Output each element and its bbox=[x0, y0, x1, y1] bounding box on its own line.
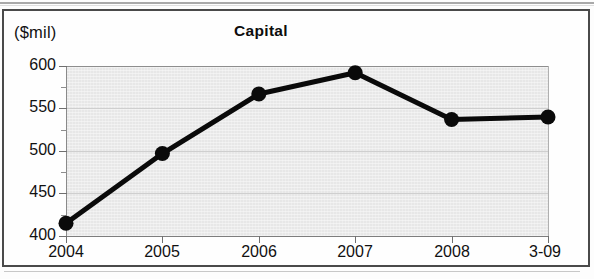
y-tick-500 bbox=[59, 151, 67, 152]
scan-artifact-line-secondary bbox=[0, 5, 594, 6]
y-tick-525 bbox=[61, 130, 67, 131]
x-tick-3-09 bbox=[548, 236, 549, 243]
x-axis-label-2006: 2006 bbox=[219, 243, 299, 261]
gridline-550 bbox=[66, 108, 548, 109]
x-axis-line bbox=[66, 236, 549, 237]
x-axis-label-2005: 2005 bbox=[122, 243, 202, 261]
plot-area bbox=[66, 66, 548, 236]
x-tick-2004 bbox=[66, 236, 67, 243]
y-axis-label-550: 550 bbox=[4, 98, 56, 116]
gridline-450 bbox=[66, 193, 548, 194]
x-tick-2005 bbox=[162, 236, 163, 243]
x-tick-2006 bbox=[259, 236, 260, 243]
x-axis-label-2008: 2008 bbox=[412, 243, 492, 261]
y-tick-600 bbox=[59, 66, 67, 67]
scan-artifact-line bbox=[0, 2, 594, 4]
gridline-500 bbox=[66, 151, 548, 152]
x-tick-2007 bbox=[355, 236, 356, 243]
y-axis-label-500: 500 bbox=[4, 141, 56, 159]
x-axis-label-3-09: 3-09 bbox=[505, 243, 585, 261]
y-axis-labels: 600 550 500 450 400 bbox=[0, 0, 56, 279]
y-tick-425 bbox=[61, 215, 67, 216]
y-axis-label-450: 450 bbox=[4, 183, 56, 201]
plot-right-edge bbox=[548, 66, 549, 237]
y-tick-575 bbox=[61, 87, 67, 88]
y-tick-475 bbox=[61, 172, 67, 173]
y-tick-550 bbox=[59, 108, 67, 109]
y-axis-label-400: 400 bbox=[4, 226, 56, 244]
x-axis-label-2007: 2007 bbox=[315, 243, 395, 261]
y-axis-label-600: 600 bbox=[4, 56, 56, 74]
x-tick-2008 bbox=[452, 236, 453, 243]
chart-page: ($mil) Capital 600 550 500 450 400 2004 … bbox=[0, 0, 594, 279]
page-bottom-rule bbox=[4, 271, 580, 272]
y-tick-450 bbox=[59, 193, 67, 194]
x-axis-label-2004: 2004 bbox=[26, 243, 106, 261]
chart-title: Capital bbox=[0, 22, 558, 40]
